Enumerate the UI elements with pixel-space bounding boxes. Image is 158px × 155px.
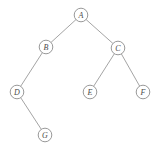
tree-node-b[interactable]: B [39, 40, 53, 54]
binary-tree-canvas: ABCDEFG [0, 0, 158, 155]
tree-edge-a-c [86, 20, 113, 44]
tree-node-label-a: A [78, 11, 84, 20]
tree-node-g[interactable]: G [38, 128, 52, 142]
tree-node-label-d: D [13, 88, 20, 97]
tree-edges-group [21, 20, 140, 130]
binary-tree-figure: ABCDEFG [0, 0, 158, 155]
tree-nodes-group: ABCDEFG [10, 8, 150, 142]
tree-edge-c-f [121, 54, 139, 86]
tree-edge-b-d [21, 53, 43, 87]
tree-node-label-e: E [87, 88, 93, 97]
tree-node-label-g: G [42, 131, 48, 140]
tree-node-d[interactable]: D [10, 85, 24, 99]
tree-node-e[interactable]: E [83, 85, 97, 99]
tree-edge-d-g [21, 98, 42, 130]
tree-node-label-c: C [115, 44, 121, 53]
tree-node-label-f: F [140, 88, 146, 97]
tree-edge-c-e [94, 54, 115, 87]
tree-edge-a-b [51, 20, 76, 43]
tree-node-c[interactable]: C [111, 41, 125, 55]
tree-node-f[interactable]: F [136, 85, 150, 99]
tree-node-label-b: B [44, 43, 49, 52]
tree-node-a[interactable]: A [74, 8, 88, 22]
